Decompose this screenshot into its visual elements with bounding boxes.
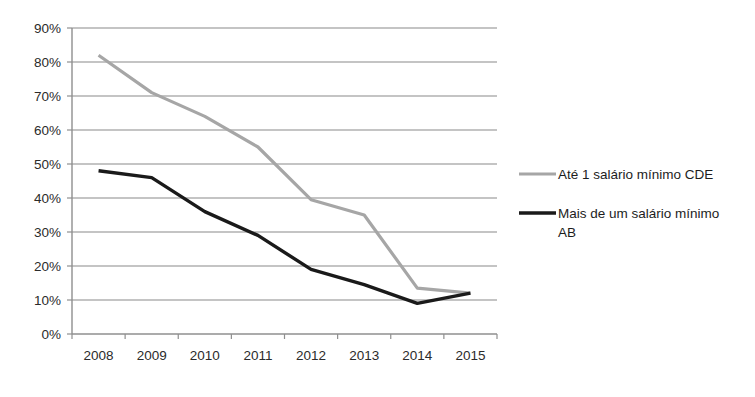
- x-tick-labels: 20082009201020112012201320142015: [84, 348, 486, 363]
- y-tick-label: 20%: [34, 259, 61, 274]
- y-tick-label: 0%: [41, 327, 61, 342]
- y-tick-label: 80%: [34, 55, 61, 70]
- chart-canvas: 0%10%20%30%40%50%60%70%80%90% 2008200920…: [0, 0, 755, 397]
- x-tick-label: 2008: [84, 348, 114, 363]
- y-axis: [67, 28, 72, 334]
- legend-label-ab-line2: AB: [558, 225, 576, 240]
- y-tick-label: 50%: [34, 157, 61, 172]
- series-line-cde: [99, 55, 471, 293]
- y-tick-label: 70%: [34, 89, 61, 104]
- y-tick-label: 60%: [34, 123, 61, 138]
- legend-label-cde: Até 1 salário mínimo CDE: [558, 167, 713, 182]
- x-axis: [72, 334, 497, 339]
- x-tick-label: 2012: [296, 348, 326, 363]
- y-tick-label: 30%: [34, 225, 61, 240]
- grid-lines: [72, 28, 497, 300]
- y-tick-label: 90%: [34, 21, 61, 36]
- x-tick-label: 2015: [455, 348, 485, 363]
- x-tick-label: 2010: [190, 348, 220, 363]
- line-chart: 0%10%20%30%40%50%60%70%80%90% 2008200920…: [0, 0, 755, 397]
- x-tick-label: 2014: [402, 348, 433, 363]
- x-tick-label: 2009: [137, 348, 167, 363]
- y-tick-labels: 0%10%20%30%40%50%60%70%80%90%: [34, 21, 61, 342]
- y-tick-label: 10%: [34, 293, 61, 308]
- chart-legend: Até 1 salário mínimo CDEMais de um salár…: [519, 167, 719, 240]
- x-tick-label: 2011: [243, 348, 272, 363]
- y-tick-label: 40%: [34, 191, 61, 206]
- x-tick-label: 2013: [349, 348, 379, 363]
- legend-label-ab: Mais de um salário mínimo: [558, 206, 719, 221]
